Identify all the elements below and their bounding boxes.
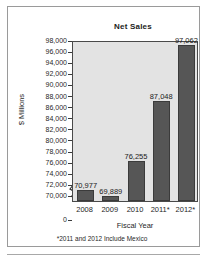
y-axis-tick-label: 0 bbox=[63, 215, 72, 225]
bar bbox=[102, 196, 119, 201]
bar bbox=[77, 190, 94, 201]
y-axis-tick-label: 74,000 bbox=[46, 169, 72, 179]
bottom-divider bbox=[7, 254, 200, 255]
chart-panel: Net Sales $ Millions 98,00096,00094,0009… bbox=[7, 6, 200, 247]
y-axis-tick-label: 76,000 bbox=[46, 158, 72, 168]
footnote: *2011 and 2012 Include Mexico bbox=[22, 235, 182, 242]
y-axis-tick-label: 86,000 bbox=[46, 103, 72, 113]
y-axis-ticks: 98,00096,00094,00092,00090,00088,00086,0… bbox=[8, 41, 72, 202]
x-axis-tick-label: 2012* bbox=[173, 205, 198, 214]
x-axis-ticks: 2008200920102011*2012* bbox=[72, 205, 198, 217]
x-axis-tick-label: 2010 bbox=[122, 205, 147, 214]
y-axis-tick-label: 82,000 bbox=[46, 125, 72, 135]
bar bbox=[128, 161, 145, 201]
x-axis-tick-label: 2008 bbox=[72, 205, 97, 214]
y-axis-tick-label: 96,000 bbox=[46, 47, 72, 57]
plot-area: 70,97769,88976,25587,04897,062 bbox=[72, 41, 198, 202]
bar-value-label: 97,062 bbox=[168, 36, 204, 45]
y-axis-tick-label: 84,000 bbox=[46, 114, 72, 124]
y-axis-tick-label: 80,000 bbox=[46, 136, 72, 146]
y-axis-tick-label: 98,000 bbox=[46, 36, 72, 46]
y-axis-tick-label: 94,000 bbox=[46, 58, 72, 68]
x-axis-tick-label: 2009 bbox=[97, 205, 122, 214]
y-axis-tick-label: 88,000 bbox=[46, 92, 72, 102]
x-axis-tick-label: 2011* bbox=[148, 205, 173, 214]
bar-value-label: 69,889 bbox=[93, 187, 129, 196]
y-axis-tick-label: 78,000 bbox=[46, 147, 72, 157]
bar-value-label: 76,255 bbox=[118, 152, 154, 161]
bar bbox=[178, 45, 195, 201]
y-axis-tick-label: 90,000 bbox=[46, 80, 72, 90]
chart-title: Net Sales bbox=[63, 22, 203, 31]
bar-value-label: 87,048 bbox=[143, 92, 179, 101]
chart-page: Net Sales $ Millions 98,00096,00094,0009… bbox=[0, 0, 208, 260]
y-axis-tick-label: 92,000 bbox=[46, 69, 72, 79]
x-axis-label: Fiscal Year bbox=[72, 221, 198, 230]
bar bbox=[153, 101, 170, 201]
